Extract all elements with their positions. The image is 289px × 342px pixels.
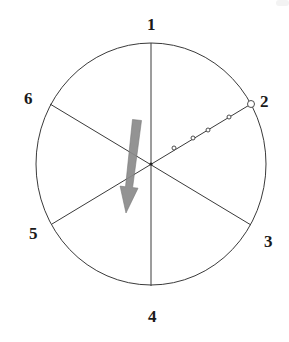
arrow-shape <box>120 120 141 214</box>
path-marker-dot <box>191 136 195 140</box>
point-label-2: 2 <box>260 92 269 111</box>
scan-smudge <box>276 0 289 6</box>
path-marker-dot <box>172 146 176 150</box>
path-markers <box>172 101 255 151</box>
point-label-3: 3 <box>264 232 273 251</box>
point-label-1: 1 <box>147 15 156 34</box>
point-label-6: 6 <box>24 89 33 108</box>
point-label-4: 4 <box>148 307 157 326</box>
path-marker-dot <box>248 101 255 108</box>
path-marker-dot <box>206 128 210 132</box>
center-point <box>149 162 152 165</box>
point-label-5: 5 <box>29 224 38 243</box>
path-marker-dot <box>227 115 231 119</box>
hexpartite-circle-diagram: 1 2 3 4 5 6 <box>0 0 289 342</box>
down-arrow-icon <box>120 120 141 214</box>
